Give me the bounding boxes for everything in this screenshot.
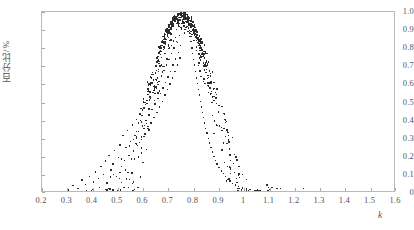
scatter-point (221, 130, 222, 131)
scatter-point (95, 171, 96, 172)
scatter-point (141, 115, 142, 116)
scatter-point (127, 172, 128, 173)
scatter-point (172, 25, 173, 26)
scatter-point (127, 130, 128, 131)
scatter-point (229, 180, 230, 181)
scatter-point (234, 172, 235, 173)
scatter-point (180, 45, 181, 46)
scatter-point (141, 147, 142, 148)
x-tick-mark (345, 188, 346, 191)
scatter-point (146, 103, 147, 104)
scatter-point (156, 88, 157, 89)
scatter-point (152, 74, 153, 75)
scatter-point (134, 158, 135, 159)
scatter-point (181, 16, 182, 17)
scatter-point (196, 50, 197, 51)
scatter-point (154, 88, 155, 89)
scatter-point (202, 52, 203, 53)
scatter-point (151, 109, 152, 110)
scatter-point (237, 190, 238, 191)
scatter-point (147, 81, 148, 82)
scatter-point (157, 77, 158, 78)
scatter-point (121, 166, 122, 167)
y-tick-mark (42, 48, 45, 49)
scatter-point (197, 83, 198, 84)
scatter-point (109, 188, 110, 189)
scatter-point (116, 176, 117, 177)
scatter-point (170, 33, 171, 34)
scatter-point (172, 64, 173, 65)
scatter-point (183, 14, 184, 15)
scatter-point (165, 82, 166, 83)
scatter-point (177, 22, 178, 23)
scatter-point (81, 179, 82, 180)
scatter-point (210, 81, 211, 82)
scatter-point (218, 111, 219, 112)
scatter-point (198, 89, 199, 90)
scatter-point (154, 100, 155, 101)
scatter-point (191, 36, 192, 37)
scatter-point (204, 64, 205, 65)
scatter-point (202, 112, 203, 113)
x-tick-mark (42, 188, 43, 191)
y-tick-mark (42, 157, 45, 158)
scatter-point (128, 155, 129, 156)
scatter-point (229, 148, 230, 149)
scatter-point (181, 28, 182, 29)
scatter-point (203, 78, 204, 79)
scatter-point (241, 189, 242, 190)
scatter-point (229, 166, 230, 167)
scatter-point (203, 81, 204, 82)
scatter-point (194, 64, 195, 65)
scatter-point (193, 59, 194, 60)
scatter-point (239, 188, 240, 189)
scatter-point (105, 189, 106, 190)
scatter-point (176, 29, 177, 30)
scatter-point (136, 119, 137, 120)
scatter-point (198, 39, 199, 40)
scatter-point (178, 52, 179, 53)
scatter-point (212, 115, 213, 116)
scatter-point (143, 98, 144, 99)
scatter-point (191, 47, 192, 48)
scatter-point (199, 57, 200, 58)
scatter-point (147, 128, 148, 129)
scatter-point (145, 120, 146, 121)
scatter-point (213, 100, 214, 101)
scatter-point (135, 143, 136, 144)
scatter-point (201, 106, 202, 107)
scatter-point (201, 47, 202, 48)
scatter-point (114, 150, 115, 151)
x-tick-mark (320, 188, 321, 191)
scatter-point (166, 58, 167, 59)
scatter-point (160, 50, 161, 51)
scatter-point (164, 47, 165, 48)
scatter-point (144, 102, 145, 103)
scatter-point (173, 24, 174, 25)
scatter-point (175, 16, 176, 17)
x-tick-mark (244, 188, 245, 191)
scatter-point (209, 70, 210, 71)
scatter-point (303, 188, 304, 189)
scatter-point (193, 26, 194, 27)
scatter-point (236, 182, 237, 183)
scatter-point (207, 64, 208, 65)
scatter-points-layer (42, 12, 394, 191)
scatter-point (246, 179, 247, 180)
scatter-point (191, 16, 192, 17)
scatter-point (210, 147, 211, 148)
scatter-point (183, 22, 184, 23)
scatter-point (212, 151, 213, 152)
scatter-point (108, 155, 109, 156)
scatter-point (136, 136, 137, 137)
scatter-point (157, 92, 158, 93)
x-tick-mark (168, 188, 169, 191)
scatter-point (230, 173, 231, 174)
scatter-point (221, 106, 222, 107)
x-tick-mark (270, 188, 271, 191)
x-axis-label: k (378, 210, 382, 220)
scatter-point (223, 173, 224, 174)
x-tick-mark (67, 188, 68, 191)
scatter-point (157, 84, 158, 85)
scatter-point (161, 57, 162, 58)
